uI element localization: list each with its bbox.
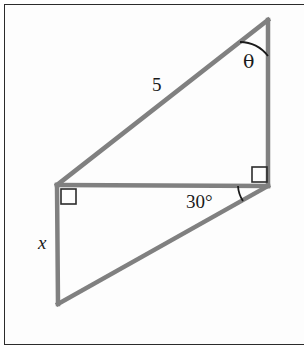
figure-drawing — [0, 0, 304, 355]
shared-horizontal-line — [57, 185, 268, 186]
lower-triangle — [57, 185, 268, 304]
upper-triangle — [57, 20, 268, 186]
label-hypotenuse-length: 5 — [152, 75, 162, 94]
right-angle-marker-lower-icon — [61, 189, 76, 204]
right-angle-marker-upper-icon — [252, 167, 267, 182]
thirty-degree-angle-arc-icon — [238, 186, 243, 201]
label-angle-theta: θ — [243, 52, 254, 71]
label-angle-30-degrees: 30° — [186, 192, 213, 211]
lower-hypotenuse-line — [58, 186, 268, 304]
label-unknown-side-x: x — [38, 233, 46, 252]
lower-vertical-leg-line — [57, 185, 58, 304]
upper-hypotenuse-line — [57, 20, 268, 185]
geometry-figure: 5 x θ 30° — [0, 0, 304, 355]
